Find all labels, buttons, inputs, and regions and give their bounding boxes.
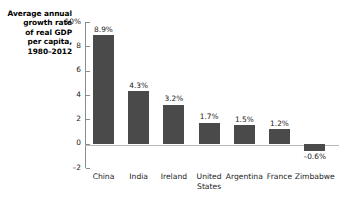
chart-title-line-3: of real GDP [6, 28, 72, 37]
bar-india[interactable] [128, 91, 149, 143]
bar-france[interactable] [269, 129, 290, 144]
bar-ireland[interactable] [163, 105, 184, 144]
y-tick-label: 0 [76, 138, 81, 148]
y-tick-mark [86, 95, 90, 96]
y-tick-4: 4 [85, 95, 90, 96]
plot-area: 10%86420–2 8.9%4.3%3.2%1.7%1.5%1.2%–0.6% [85, 22, 340, 168]
y-tick-label: 4 [76, 90, 81, 100]
chart-title-line-5: 1980–2012 [6, 47, 72, 56]
y-tick-label: 10% [65, 17, 81, 27]
y-tick-label: 2 [76, 114, 81, 124]
y-tick-neg2: –2 [85, 168, 90, 169]
bar-argentina[interactable] [234, 125, 255, 143]
bar-value-label: 3.2% [153, 94, 194, 103]
bar-value-label: 1.2% [259, 119, 300, 128]
zero-baseline [85, 145, 339, 146]
chart-title-line-2: growth rate [6, 18, 72, 27]
y-tick-mark [86, 46, 90, 47]
y-tick-label: 8 [76, 41, 81, 51]
y-tick-mark [86, 119, 90, 120]
y-tick-mark [86, 144, 90, 145]
chart-title-line-4: per capita, [6, 37, 72, 46]
bar-united-states[interactable] [199, 123, 220, 144]
y-tick-mark [86, 168, 90, 169]
chart-title: Average annual growth rate of real GDP p… [6, 9, 72, 56]
chart-title-line-1: Average annual [6, 9, 72, 18]
y-tick-10: 10% [85, 22, 90, 23]
bar-value-label: 8.9% [83, 25, 124, 34]
y-tick-8: 8 [85, 46, 90, 47]
y-tick-0: 0 [85, 144, 90, 145]
y-tick-label: 6 [76, 65, 81, 75]
y-tick-mark [86, 71, 90, 72]
bar-value-label: 4.3% [118, 81, 159, 90]
y-tick-2: 2 [85, 119, 90, 120]
bar-chart-figure: Average annual growth rate of real GDP p… [0, 0, 344, 201]
y-tick-label: –2 [73, 163, 81, 173]
bar-china[interactable] [93, 35, 114, 143]
y-tick-mark [86, 22, 90, 23]
bar-value-label: –0.6% [294, 152, 335, 161]
x-label-zimbabwe: Zimbabwe [294, 172, 336, 182]
y-tick-6: 6 [85, 71, 90, 72]
bar-zimbabwe[interactable] [304, 144, 325, 151]
